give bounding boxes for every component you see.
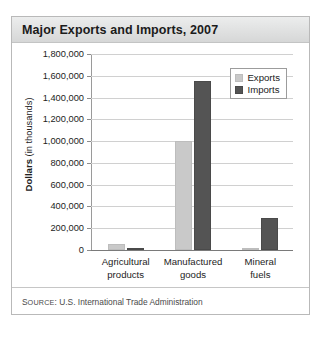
- y-axis-title: Dollars (in thousands): [23, 65, 34, 225]
- legend-swatch-exports-icon: [235, 74, 243, 82]
- x-axis-label-line: goods: [159, 269, 226, 282]
- y-axis-title-rest: (in thousands): [24, 97, 34, 159]
- bar-exports: [242, 248, 259, 250]
- source-note: SOURCE: U.S. International Trade Adminis…: [22, 297, 203, 307]
- legend-item-exports: Exports: [235, 72, 280, 83]
- y-axis-tick-label: 400,000: [50, 201, 84, 211]
- y-axis-tick-label: 1,400,000: [43, 93, 84, 103]
- legend-item-imports: Imports: [235, 84, 280, 95]
- x-axis-label-line: Manufactured: [159, 256, 226, 269]
- bar-imports: [194, 81, 211, 250]
- y-axis-tick-label: 200,000: [50, 223, 84, 233]
- y-axis-tick-label: 1,800,000: [43, 49, 84, 59]
- bar-imports: [127, 248, 144, 250]
- y-axis-tick: [87, 185, 91, 186]
- source-text: : U.S. International Trade Administratio…: [55, 297, 203, 307]
- y-axis-tick-label: 600,000: [50, 180, 84, 190]
- plot-area: 1,800,0001,600,0001,400,0001,200,0001,00…: [91, 54, 293, 250]
- chart-card: Major Exports and Imports, 2007 Dollars …: [11, 16, 310, 315]
- x-axis-label-line: products: [92, 269, 159, 282]
- y-axis-tick: [87, 98, 91, 99]
- gridline: [91, 250, 293, 251]
- y-axis-tick-label: 1,000,000: [43, 136, 84, 146]
- x-axis-label-line: fuels: [227, 269, 294, 282]
- bar-group: [159, 54, 226, 250]
- legend-label-exports: Exports: [247, 72, 280, 83]
- x-axis-label: Mineralfuels: [227, 256, 294, 281]
- y-axis-tick-label: 800,000: [50, 158, 84, 168]
- chart-body: Dollars (in thousands) 1,800,0001,600,00…: [12, 43, 309, 285]
- y-axis-tick: [87, 163, 91, 164]
- x-axis-label: Manufacturedgoods: [159, 256, 226, 281]
- source-divider: [12, 287, 309, 288]
- y-axis-tick: [87, 119, 91, 120]
- legend-label-imports: Imports: [247, 84, 279, 95]
- y-axis-tick-label: 1,600,000: [43, 71, 84, 81]
- y-axis-title-bold: Dollars: [23, 159, 34, 192]
- legend-swatch-imports-icon: [235, 86, 243, 94]
- bar-group: [92, 54, 159, 250]
- chart-legend: Exports Imports: [230, 68, 287, 99]
- y-axis-tick: [87, 76, 91, 77]
- y-axis-tick: [87, 141, 91, 142]
- bar-exports: [175, 141, 192, 250]
- bar-imports: [261, 218, 278, 250]
- chart-title-bar: Major Exports and Imports, 2007: [12, 17, 309, 43]
- y-axis-tick: [87, 250, 91, 251]
- bar-exports: [108, 244, 125, 250]
- x-axis-label-line: Mineral: [227, 256, 294, 269]
- y-axis-tick: [87, 206, 91, 207]
- y-axis-tick: [87, 228, 91, 229]
- x-axis-labels: AgriculturalproductsManufacturedgoodsMin…: [92, 256, 294, 290]
- x-axis-label-line: Agricultural: [92, 256, 159, 269]
- y-axis-tick-label: 1,200,000: [43, 114, 84, 124]
- x-axis-label: Agriculturalproducts: [92, 256, 159, 281]
- y-axis-tick-label: 0: [79, 245, 84, 255]
- y-axis-tick: [87, 54, 91, 55]
- page-title: Major Exports and Imports, 2007: [22, 23, 218, 37]
- source-smallcaps: OURCE: [28, 298, 55, 307]
